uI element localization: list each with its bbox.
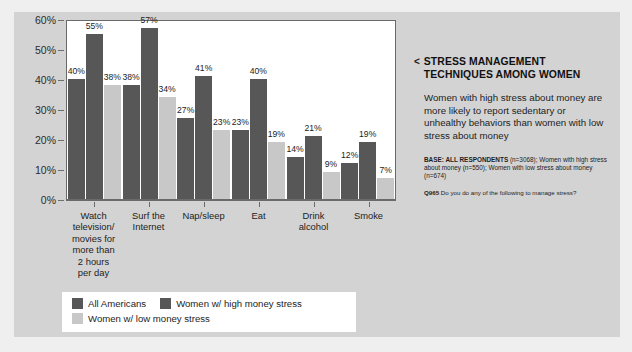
panel-deck-text: Women with high stress about money are m…: [424, 92, 610, 142]
y-axis-tick-mark: [58, 140, 64, 141]
bar: 7%: [377, 178, 394, 199]
bar-value-label: 7%: [379, 165, 391, 175]
y-axis-tick-mark: [58, 80, 64, 81]
y-axis-tick-label: 20%: [35, 134, 56, 146]
bar-value-label: 41%: [195, 63, 212, 73]
x-axis-label-line: television/: [66, 221, 121, 232]
bar: 57%: [141, 28, 158, 199]
chart-legend: All Americans Women w/ high money stress…: [62, 292, 356, 332]
bar-value-label: 14%: [286, 144, 303, 154]
y-axis-tick-mark: [58, 170, 64, 171]
bar: 38%: [104, 85, 121, 199]
x-axis-label-line: 2 hours: [66, 256, 121, 267]
bar: 19%: [359, 142, 376, 199]
y-axis-tick-mark: [58, 20, 64, 21]
chevron-left-icon: <: [414, 56, 420, 69]
bar-group: 40%55%38%: [67, 21, 122, 199]
bar: 38%: [123, 85, 140, 199]
bar: 14%: [287, 157, 304, 199]
y-axis-tick-label: 50%: [35, 44, 56, 56]
x-axis-label-line: more than: [66, 244, 121, 255]
x-axis-label-line: Internet: [121, 221, 176, 232]
bar-value-label: 38%: [104, 72, 121, 82]
y-axis-tick-label: 10%: [35, 164, 56, 176]
page-title: STRESS MANAGEMENT TECHNIQUES AMONG WOMEN: [424, 56, 612, 81]
bar-value-label: 38%: [122, 72, 139, 82]
bar: 41%: [195, 76, 212, 199]
panel-base-note: BASE: ALL RESPONDENTS (n=3068); Women wi…: [424, 156, 612, 181]
legend-row: All Americans Women w/ high money stress: [72, 298, 348, 309]
x-axis-label-line: per day: [66, 267, 121, 278]
legend-label-high-money-stress: Women w/ high money stress: [176, 298, 302, 309]
bar: 55%: [86, 34, 103, 199]
bar: 40%: [68, 79, 85, 199]
bar: 23%: [232, 130, 249, 199]
x-axis-label-line: Watch: [66, 210, 121, 221]
slide-canvas: 60%50%40%30%20%10%0% 40%55%38%38%57%34%2…: [14, 12, 620, 337]
y-axis-tick-label: 60%: [35, 14, 56, 26]
bar-value-label: 19%: [359, 129, 376, 139]
bar-groups: 40%55%38%38%57%34%27%41%23%23%40%19%14%2…: [67, 21, 395, 199]
y-axis: 60%50%40%30%20%10%0%: [20, 20, 66, 200]
legend-label-low-money-stress: Women w/ low money stress: [88, 313, 210, 324]
x-axis-tick-mark: [314, 202, 315, 207]
legend-label-all-americans: All Americans: [88, 298, 146, 309]
x-axis-label-line: movies for: [66, 233, 121, 244]
legend-item-all-americans: All Americans: [72, 298, 146, 309]
y-axis-tick-mark: [58, 200, 64, 201]
bar-value-label: 9%: [325, 159, 337, 169]
legend-item-low-money-stress: Women w/ low money stress: [72, 313, 210, 324]
bar-value-label: 23%: [232, 117, 249, 127]
panel-content: < STRESS MANAGEMENT TECHNIQUES AMONG WOM…: [414, 56, 612, 197]
y-axis-tick-mark: [58, 110, 64, 111]
bar: 21%: [305, 136, 322, 199]
x-axis-labels: Watchtelevision/movies formore than2 hou…: [66, 202, 396, 278]
bar: 40%: [250, 79, 267, 199]
panel-question-note: Q965 Do you do any of the following to m…: [424, 189, 612, 197]
bar-group: 23%40%19%: [231, 21, 286, 199]
x-axis-label-line: Drink: [286, 210, 341, 221]
x-axis-category-label: Smoke: [341, 202, 396, 278]
y-axis-tick-label: 30%: [35, 104, 56, 116]
x-axis-tick-mark: [369, 202, 370, 207]
legend-swatch-all-americans: [72, 298, 83, 309]
bar: 23%: [213, 130, 230, 199]
x-axis-tick-mark: [149, 202, 150, 207]
x-axis-tick-mark: [204, 202, 205, 207]
bar-value-label: 27%: [177, 105, 194, 115]
x-axis-category-label: Surf theInternet: [121, 202, 176, 278]
x-axis-category-label: Watchtelevision/movies formore than2 hou…: [66, 202, 121, 278]
bar-chart: 60%50%40%30%20%10%0% 40%55%38%38%57%34%2…: [14, 12, 404, 337]
x-axis-category-label: Eat: [231, 202, 286, 278]
bar-value-label: 40%: [68, 66, 85, 76]
y-axis-tick-mark: [58, 50, 64, 51]
y-axis-tick-label: 0%: [41, 194, 56, 206]
legend-swatch-high-money-stress: [160, 298, 171, 309]
question-code: Q965: [424, 189, 439, 196]
bar-group: 27%41%23%: [176, 21, 231, 199]
bar-group: 14%21%9%: [286, 21, 341, 199]
bar-value-label: 12%: [341, 150, 358, 160]
plot-area: 40%55%38%38%57%34%27%41%23%23%40%19%14%2…: [66, 20, 396, 200]
bar-value-label: 21%: [304, 123, 321, 133]
y-axis-tick-label: 40%: [35, 74, 56, 86]
bar-group: 38%57%34%: [122, 21, 177, 199]
x-axis-tick-mark: [94, 202, 95, 207]
x-axis-tick-mark: [259, 202, 260, 207]
x-axis-category-label: Nap/sleep: [176, 202, 231, 278]
bar: 27%: [177, 118, 194, 199]
x-axis-label-line: Nap/sleep: [176, 210, 231, 221]
legend-row: Women w/ low money stress: [72, 313, 348, 324]
panel-headline: < STRESS MANAGEMENT TECHNIQUES AMONG WOM…: [414, 56, 612, 81]
x-axis-category-label: Drinkalcohol: [286, 202, 341, 278]
bar-value-label: 57%: [140, 15, 157, 25]
bar-value-label: 23%: [213, 117, 230, 127]
legend-item-high-money-stress: Women w/ high money stress: [160, 298, 302, 309]
bar: 12%: [341, 163, 358, 199]
side-text-panel: < STRESS MANAGEMENT TECHNIQUES AMONG WOM…: [406, 12, 620, 337]
bar: 19%: [268, 142, 285, 199]
bar-value-label: 55%: [86, 21, 103, 31]
bar-value-label: 34%: [158, 84, 175, 94]
bar-value-label: 40%: [250, 66, 267, 76]
question-text: Do you do any of the following to manage…: [439, 189, 576, 196]
